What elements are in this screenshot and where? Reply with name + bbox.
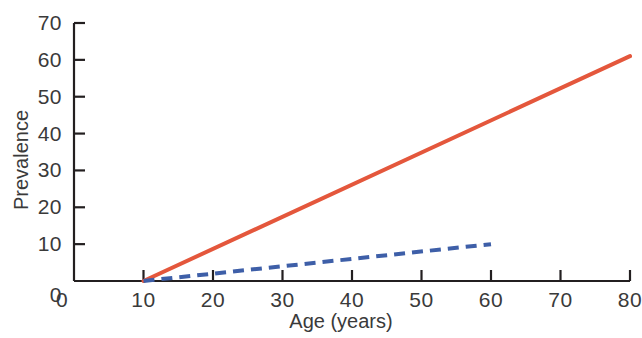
- x-tick-label: 60: [479, 288, 503, 312]
- y-axis-ticks: [74, 23, 85, 244]
- x-tick-label: 0: [56, 288, 68, 312]
- y-tick-label: 50: [18, 85, 62, 109]
- series-line-solid-red-line: [144, 56, 631, 281]
- x-tick-label: 20: [201, 288, 225, 312]
- y-tick-label: 10: [18, 232, 62, 256]
- x-tick-label: 30: [270, 288, 294, 312]
- x-tick-label: 10: [131, 288, 155, 312]
- series-line-dashed-blue-line: [144, 244, 492, 281]
- x-axis-title: Age (years): [289, 310, 392, 333]
- x-tick-label: 80: [618, 288, 642, 312]
- y-axis-title: Prevalence: [10, 110, 33, 210]
- y-tick-label: 60: [18, 48, 62, 72]
- x-tick-label: 40: [340, 288, 364, 312]
- x-tick-label: 50: [409, 288, 433, 312]
- data-series-group: [144, 56, 631, 281]
- axis-spines: [74, 23, 630, 281]
- x-tick-label: 70: [548, 288, 572, 312]
- y-tick-label: 70: [18, 11, 62, 35]
